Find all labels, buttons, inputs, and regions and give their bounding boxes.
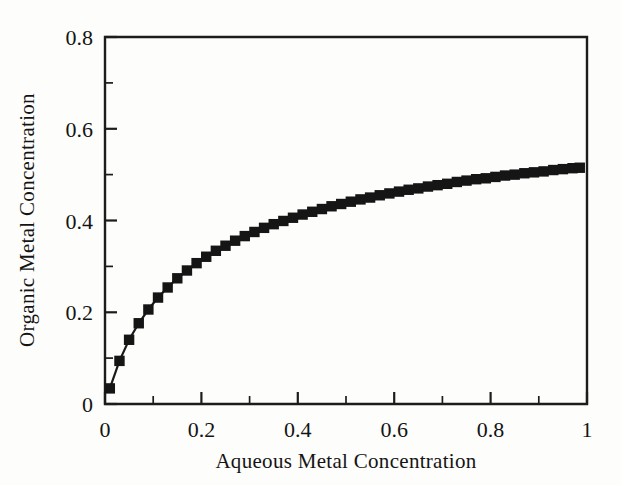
plot-frame (105, 37, 587, 404)
x-axis-title: Aqueous Metal Concentration (215, 449, 476, 473)
x-tick-label-0p2: 0.2 (188, 417, 216, 442)
data-point-marker (575, 163, 585, 173)
data-point-marker (490, 172, 500, 182)
y-tick-label-0p6: 0.6 (66, 117, 94, 142)
axes-frame (105, 37, 587, 404)
data-point-marker (105, 383, 115, 393)
data-point-marker (201, 252, 211, 262)
data-point-marker (172, 273, 182, 283)
y-axis-ticks (105, 37, 117, 404)
chart-canvas: 0 0.2 0.4 0.6 0.8 1 0 0.2 0.4 0.6 0.8 Aq… (0, 0, 621, 485)
x-tick-label-0p8: 0.8 (477, 417, 505, 442)
data-series-equilibrium-isotherm (105, 163, 585, 394)
data-point-marker (375, 190, 385, 200)
data-point-marker (288, 213, 298, 223)
data-point-marker (538, 166, 548, 176)
data-point-marker (413, 183, 423, 193)
data-point-marker (230, 235, 240, 245)
data-point-marker (317, 204, 327, 214)
data-point-marker (191, 258, 201, 268)
data-point-marker (326, 201, 336, 211)
data-point-marker (529, 167, 539, 177)
data-point-marker (134, 318, 144, 328)
data-point-marker (162, 282, 172, 292)
data-point-marker (423, 181, 433, 191)
data-point-marker (124, 335, 134, 345)
data-point-marker (259, 223, 269, 233)
data-point-marker (143, 304, 153, 314)
y-tick-label-0: 0 (82, 392, 93, 417)
y-axis-title: Organic Metal Concentration (15, 93, 39, 347)
data-point-marker (355, 194, 365, 204)
x-tick-label-0p6: 0.6 (380, 417, 408, 442)
data-point-marker (220, 241, 230, 251)
data-point-marker (500, 170, 510, 180)
data-point-marker (269, 219, 279, 229)
data-point-marker (403, 185, 413, 195)
x-tick-label-0p4: 0.4 (284, 417, 312, 442)
y-tick-label-0p2: 0.2 (66, 300, 94, 325)
data-point-marker (336, 199, 346, 209)
data-point-marker (114, 356, 124, 366)
data-point-marker (182, 265, 192, 275)
x-tick-label-1: 1 (582, 417, 593, 442)
data-point-marker (365, 192, 375, 202)
data-point-marker (346, 196, 356, 206)
data-point-marker (452, 177, 462, 187)
y-tick-label-0p4: 0.4 (66, 209, 94, 234)
y-tick-labels: 0 0.2 0.4 0.6 0.8 (66, 25, 94, 417)
data-point-marker (249, 227, 259, 237)
data-point-marker (394, 186, 404, 196)
x-tick-label-0: 0 (100, 417, 111, 442)
y-tick-label-0p8: 0.8 (66, 25, 94, 50)
data-point-marker (461, 175, 471, 185)
data-point-marker (442, 179, 452, 189)
data-point-marker (548, 165, 558, 175)
data-point-marker (211, 246, 221, 256)
x-axis-ticks (105, 392, 587, 404)
data-point-marker (432, 180, 442, 190)
x-tick-labels: 0 0.2 0.4 0.6 0.8 1 (100, 417, 593, 442)
data-point-marker (240, 231, 250, 241)
data-point-marker (481, 173, 491, 183)
data-point-marker (558, 164, 568, 174)
data-point-marker (297, 209, 307, 219)
chart-figure: 0 0.2 0.4 0.6 0.8 1 0 0.2 0.4 0.6 0.8 Aq… (0, 0, 621, 485)
data-point-marker (153, 292, 163, 302)
data-point-marker (384, 188, 394, 198)
data-point-marker (307, 207, 317, 217)
data-point-marker (278, 216, 288, 226)
data-point-marker (519, 168, 529, 178)
data-point-marker (510, 169, 520, 179)
data-point-marker (471, 174, 481, 184)
